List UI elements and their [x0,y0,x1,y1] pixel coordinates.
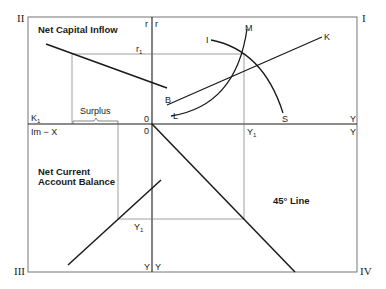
curve-label-l: L [173,111,178,121]
surplus-bracket [73,118,118,124]
curve-label-i: I [206,35,209,45]
surplus-label: Surplus [80,106,111,116]
net-current-account-line [68,180,161,265]
four-quadrant-diagram [0,0,386,289]
is-curve [211,40,283,113]
r1-label: r1 [136,44,142,57]
y-label-bottom-right: Y [155,262,161,272]
quadrant-iii-label: III [14,266,25,276]
quadrant-i-label: I [362,13,366,23]
y1-q3-label: Y1 [134,222,143,235]
y1-axis-label: Y1 [247,127,256,140]
r-axis-label-left: r [145,19,148,29]
origin-label-bottom: 0 [144,126,149,136]
net-current-account-title-line2: Account Balance [38,177,115,187]
y-axis-label-bottom-right: Y [350,127,356,137]
curve-label-m: M [245,23,253,33]
curve-label-k: K [324,32,330,42]
k1-label: K1 [31,113,40,126]
y-axis-label-top-right: Y [350,114,356,124]
lm-curve [171,29,247,116]
net-capital-inflow-title: Net Capital Inflow [38,25,118,35]
quadrant-iv-label: IV [360,266,372,276]
quadrant-ii-label: II [17,13,24,23]
net-capital-inflow-line [46,44,167,88]
forty-five-line-title: 45° Line [273,196,310,206]
r-axis-label-right: r [155,19,158,29]
y-label-bottom-left: Y [144,262,150,272]
im-minus-x-label: Im − X [31,127,57,137]
curve-label-b: B [165,95,171,105]
origin-label-top: 0 [144,114,149,124]
bk-curve [167,37,322,105]
curve-label-s: S [282,114,288,124]
